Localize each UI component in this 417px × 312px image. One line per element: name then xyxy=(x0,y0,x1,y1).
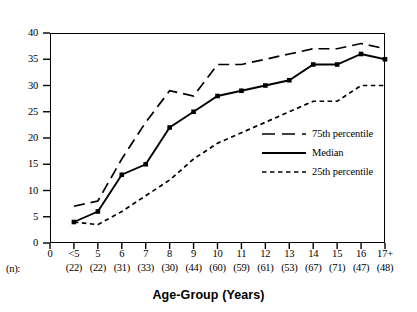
chart-figure: 0510152025303540 0<556789101112131415161… xyxy=(0,0,417,312)
legend-item-75th-percentile: 75th percentile xyxy=(262,124,373,143)
y-axis-ticks xyxy=(43,33,50,243)
x-axis-title: Age-Group (Years) xyxy=(0,288,417,302)
legend-label: 75th percentile xyxy=(312,128,373,139)
y-tick-label: 40 xyxy=(12,28,38,39)
legend-item-median: Median xyxy=(262,143,373,162)
sample-size-row-label: (n): xyxy=(6,263,20,274)
x-tick-label: 17+ xyxy=(369,249,401,260)
legend-swatch-long-dash xyxy=(262,129,306,139)
sample-size-label: (48) xyxy=(368,263,402,274)
y-tick-label: 25 xyxy=(12,107,38,118)
legend-label: Median xyxy=(312,147,343,158)
legend-swatch-short-dash xyxy=(262,167,306,177)
legend-item-25th-percentile: 25th percentile xyxy=(262,162,373,181)
y-tick-label: 30 xyxy=(12,81,38,92)
chart-legend: 75th percentile Median 25th percentile xyxy=(262,124,373,181)
legend-label: 25th percentile xyxy=(312,166,373,177)
y-tick-label: 35 xyxy=(12,54,38,65)
y-tick-label: 5 xyxy=(12,212,38,223)
y-tick-label: 15 xyxy=(12,159,38,170)
y-tick-label: 10 xyxy=(12,186,38,197)
legend-swatch-solid xyxy=(262,148,306,158)
y-tick-label: 0 xyxy=(12,238,38,249)
y-tick-label: 20 xyxy=(12,133,38,144)
